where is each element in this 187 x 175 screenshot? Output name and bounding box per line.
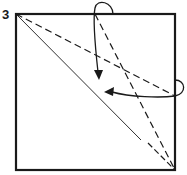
- valley-fold-line-3: [148, 143, 175, 170]
- origami-diagram: [0, 0, 187, 175]
- valley-fold-line-1: [16, 14, 175, 96]
- fold-arrow-right-icon: [104, 80, 184, 97]
- diagonal-crease: [16, 14, 141, 140]
